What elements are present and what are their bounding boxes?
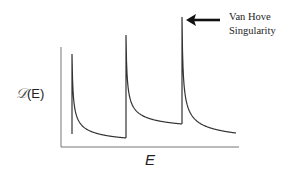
axes (61, 47, 239, 147)
dos-curve-segment (126, 35, 182, 138)
y-axis-label: 𝒟(E) (16, 86, 44, 101)
x-axis-label: E (145, 151, 156, 168)
dos-curves (72, 17, 236, 138)
density-of-states-diagram: Van Hove Singularity 𝒟(E) E (0, 0, 288, 180)
van-hove-annotation: Van Hove Singularity (186, 11, 276, 36)
annotation-line-2: Singularity (229, 25, 276, 36)
dos-curve-segment (72, 54, 126, 138)
dos-curve-segment (182, 17, 236, 133)
ylabel-arg: (E) (27, 86, 44, 101)
annotation-line-1: Van Hove (229, 11, 271, 22)
